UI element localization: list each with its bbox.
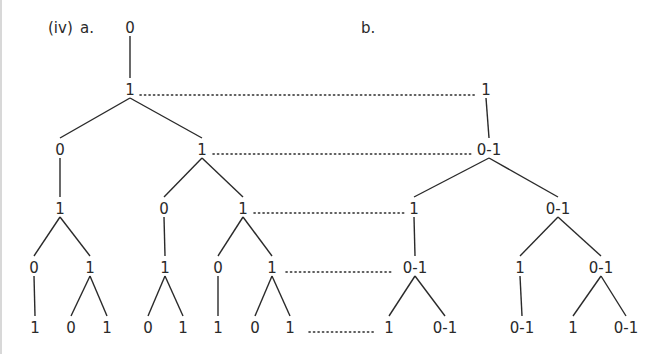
- tree-a-nodes: 01011010110110101101: [29, 19, 295, 337]
- tree-node: 0-1: [403, 259, 428, 277]
- figure-label: (iv): [48, 19, 73, 37]
- tree-edge: [202, 158, 243, 197]
- tree-node: 1: [238, 200, 248, 218]
- tree-edge: [414, 158, 489, 197]
- part-a-label: a.: [80, 19, 94, 37]
- tree-node: 1: [568, 319, 578, 337]
- tree-node: 0: [66, 319, 76, 337]
- tree-edge: [34, 276, 35, 316]
- tree-node: 1: [55, 200, 65, 218]
- tree-edge: [601, 276, 626, 316]
- tree-node: 0-1: [614, 319, 639, 337]
- tree-b-nodes: 10-110-10-110-110-10-110-1: [384, 81, 638, 337]
- tree-b-edges: [389, 98, 626, 316]
- tree-edge: [164, 158, 202, 197]
- tree-edge: [272, 276, 290, 316]
- tree-edge: [71, 276, 90, 316]
- tree-node: 0-1: [477, 141, 502, 159]
- tree-node: 1: [285, 319, 295, 337]
- tree-node: 1: [197, 141, 207, 159]
- tree-edge: [164, 217, 165, 256]
- tree-edge: [414, 217, 415, 256]
- tree-node: 1: [178, 319, 188, 337]
- tree-edge: [486, 98, 489, 138]
- tree-node: 1: [515, 259, 525, 277]
- tree-edge: [243, 217, 272, 256]
- tree-node: 1: [85, 259, 95, 277]
- tree-edge: [165, 276, 183, 316]
- tree-node: 0: [143, 319, 153, 337]
- tree-edge: [130, 98, 202, 138]
- tree-edge: [573, 276, 601, 316]
- tree-node: 1: [160, 259, 170, 277]
- tree-edge: [520, 217, 558, 256]
- tree-edge: [255, 276, 272, 316]
- tree-node: 0-1: [433, 319, 458, 337]
- tree-edge: [34, 217, 60, 256]
- tree-node: 1: [30, 319, 40, 337]
- tree-node: 0: [213, 259, 223, 277]
- tree-diagram: (iv) a. b. 01011010110110101101 10-110-1…: [0, 0, 663, 354]
- tree-node: 0-1: [510, 319, 535, 337]
- tree-node: 0-1: [546, 200, 571, 218]
- tree-edge: [60, 98, 130, 138]
- tree-edge: [520, 276, 522, 316]
- tree-edge: [148, 276, 165, 316]
- tree-node: 1: [409, 200, 419, 218]
- tree-node: 1: [481, 81, 491, 99]
- tree-node: 0: [29, 259, 39, 277]
- tree-node: 1: [384, 319, 394, 337]
- tree-node: 0: [250, 319, 260, 337]
- tree-edge: [60, 217, 90, 256]
- tree-node: 1: [213, 319, 223, 337]
- tree-edge: [558, 217, 601, 256]
- tree-edge: [90, 276, 107, 316]
- tree-node: 1: [125, 81, 135, 99]
- tree-node: 0: [55, 141, 65, 159]
- tree-edge: [415, 276, 445, 316]
- part-b-label: b.: [361, 19, 375, 37]
- tree-node: 0-1: [589, 259, 614, 277]
- tree-node: 1: [102, 319, 112, 337]
- tree-edge: [389, 276, 415, 316]
- tree-node: 0: [159, 200, 169, 218]
- tree-edge: [489, 158, 558, 197]
- tree-node: 1: [267, 259, 277, 277]
- tree-edge: [218, 217, 243, 256]
- tree-node: 0: [125, 19, 135, 37]
- correspondence-lines: [140, 95, 477, 332]
